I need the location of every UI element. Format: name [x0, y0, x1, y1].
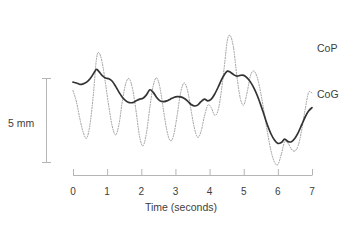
x-axis-tick-label: 4 — [203, 186, 217, 197]
x-axis-tick-label: 2 — [134, 186, 148, 197]
series-label-cop: CoP — [317, 42, 337, 54]
x-axis-tick-label: 7 — [305, 186, 319, 197]
x-axis-tick-label: 5 — [237, 186, 251, 197]
series-label-cog: CoG — [317, 88, 339, 100]
x-axis-ticks — [74, 169, 313, 176]
x-axis-tick-label: 1 — [100, 186, 114, 197]
x-axis — [73, 169, 313, 176]
scale-bar-label: 5 mm — [8, 117, 34, 129]
x-axis-tick-label: 3 — [168, 186, 182, 197]
x-axis-tick-label: 6 — [271, 186, 285, 197]
x-axis-tick-label: 0 — [66, 186, 80, 197]
chart-figure: 5 mm Time (seconds) CoP CoG 01234567 — [0, 0, 350, 228]
x-axis-title: Time (seconds) — [145, 201, 217, 213]
scale-bar — [42, 78, 51, 163]
series-line-cop — [73, 35, 312, 165]
